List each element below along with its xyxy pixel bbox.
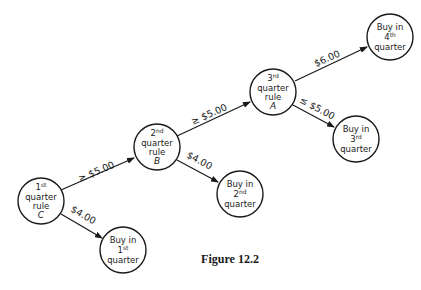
svg-text:C: C (38, 210, 45, 220)
edge-label-b-buy2: $4.00 (185, 149, 214, 171)
node-1st-quarter-rule-c: 1st quarter rule C (18, 178, 64, 224)
node-buy-in-1st-quarter: Buy in 1st quarter (100, 227, 146, 273)
svg-text:A: A (269, 101, 276, 111)
svg-text:quarter: quarter (224, 199, 256, 209)
node-buy-in-4th-quarter: Buy in 4th quarter (367, 14, 413, 60)
svg-text:quarter: quarter (107, 255, 139, 265)
svg-text:B: B (154, 156, 160, 166)
edge-label-c-buy1: $4.00 (69, 203, 98, 226)
svg-text:quarter: quarter (374, 42, 406, 52)
node-3rd-quarter-rule-a: 3rd quarter rule A (250, 69, 296, 115)
node-buy-in-3rd-quarter: Buy in 3rd quarter (333, 116, 379, 162)
node-2nd-quarter-rule-b: 2nd quarter rule B (134, 124, 180, 170)
figure-caption: Figure 12.2 (190, 252, 270, 267)
node-buy-in-2nd-quarter: Buy in 2nd quarter (217, 171, 263, 217)
edge-label-c-b: ≥ $5.00 (76, 159, 115, 184)
decision-tree-diagram: ≥ $5.00 $4.00 ≥ $5.00 $4.00 $6.00 ≤ $5.0… (0, 0, 421, 290)
svg-text:quarter: quarter (340, 144, 372, 154)
